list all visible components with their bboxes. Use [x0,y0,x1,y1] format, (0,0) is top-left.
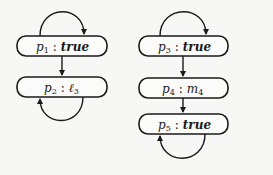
self-loop-p5 [160,134,205,158]
node-p2: p2:ℓ3 [17,77,107,97]
node-separator: : [175,40,179,54]
node-separator: : [61,81,65,95]
node-value: m [187,82,198,96]
node-value-index: 4 [198,88,203,97]
node-index: 3 [166,46,171,55]
node-index: 4 [170,88,175,97]
node-p1: p1:true [17,36,107,56]
self-loop-p2 [40,97,83,121]
node-separator: : [175,118,179,132]
node-separator: : [53,40,57,54]
node-index: 1 [44,46,49,55]
svg-text:p4:m4: p4:m4 [162,82,203,97]
node-separator: : [179,82,183,96]
node-index: 2 [52,87,57,96]
svg-text:p2:ℓ3: p2:ℓ3 [44,81,79,96]
node-index: 5 [166,124,171,133]
node-p3: p3:true [139,36,228,56]
node-value: true [183,40,212,54]
node-value-index: 3 [74,87,79,96]
state-diagram: p1:true p2:ℓ3 p3:true p4:m4 p5:true [0,0,273,175]
node-p4: p4:m4 [139,78,228,98]
self-loop-p1 [40,12,84,36]
self-loop-p3 [160,12,206,36]
node-p5: p5:true [139,114,228,134]
node-value: true [61,40,90,54]
node-value: true [183,118,212,132]
